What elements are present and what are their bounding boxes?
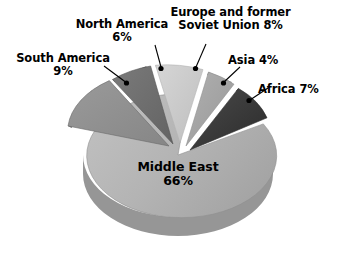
slice-label-north-america: North America 6% (66, 18, 178, 44)
slice-label-europe: Europe and former Soviet Union 8% (168, 6, 293, 32)
leader-dot-africa (246, 98, 251, 103)
slice-label-africa: Africa 7% (258, 83, 342, 96)
slice-label-asia: Asia 4% (228, 54, 310, 67)
leader-line-asia (224, 67, 240, 82)
leader-dot-asia (221, 80, 226, 85)
slice-label-middle-east: Middle East 66% (118, 160, 238, 188)
leader-dot-north-america (158, 66, 163, 71)
leader-dot-south-america (124, 80, 129, 85)
pie-chart-figure: South America 9% North America 6% Europe… (0, 0, 346, 261)
slice-label-south-america: South America 9% (4, 52, 122, 78)
leader-line-europe (196, 44, 206, 67)
leader-dot-europe (193, 66, 198, 71)
leader-line-north-america (155, 45, 161, 67)
